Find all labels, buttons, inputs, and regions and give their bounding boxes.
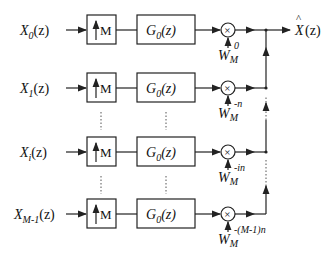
branch-row: Xi(z)MG0(z)×WM-in [19, 137, 266, 187]
input-label: X1(z) [19, 81, 49, 99]
svg-text:0: 0 [234, 40, 239, 51]
filter-bank-diagram: X0(z)MG0(z)×WM0X1(z)MG0(z)×WM-nXi(z)MG0(… [0, 0, 332, 267]
svg-text:-(M-1)n: -(M-1)n [234, 224, 266, 236]
branch-row: XM-1(z)MG0(z)×WM-(M-1)n [13, 199, 266, 249]
svg-text:M: M [100, 23, 112, 38]
svg-text:-n: -n [234, 98, 242, 109]
output-label: X ^ (z) [294, 12, 321, 39]
summing-bus [264, 28, 290, 214]
input-label: X0(z) [19, 23, 49, 41]
branch-row: X0(z)MG0(z)×WM0 [19, 15, 266, 65]
svg-text:^: ^ [296, 12, 302, 24]
svg-text:M: M [100, 145, 112, 160]
svg-text:×: × [224, 208, 230, 220]
svg-text:×: × [224, 24, 230, 36]
svg-text:-in: -in [234, 162, 245, 173]
svg-text:X: X [294, 23, 304, 38]
svg-text:×: × [224, 82, 230, 94]
input-label: Xi(z) [19, 145, 47, 163]
svg-text:(z): (z) [305, 23, 321, 39]
input-label: XM-1(z) [13, 207, 55, 225]
svg-text:M: M [100, 207, 112, 222]
svg-text:M: M [100, 81, 112, 96]
svg-text:×: × [224, 146, 230, 158]
branch-row: X1(z)MG0(z)×WM-n [19, 73, 266, 123]
